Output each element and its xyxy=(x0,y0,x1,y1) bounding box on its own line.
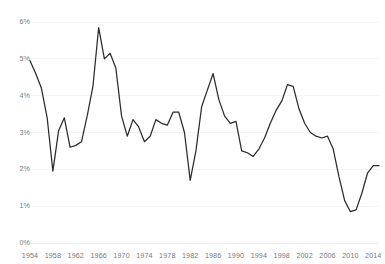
x-tick-label-1974: 1974 xyxy=(136,252,152,260)
x-tick-label-1994: 1994 xyxy=(251,252,267,260)
plot-area xyxy=(0,0,385,264)
x-tick-label-1990: 1990 xyxy=(228,252,244,260)
x-tick-label-2006: 2006 xyxy=(319,252,335,260)
y-tick-label-4%: 4% xyxy=(2,92,30,100)
y-axis: 0%1%2%3%4%5%6% xyxy=(0,0,30,264)
y-tick-label-2%: 2% xyxy=(2,165,30,173)
x-tick-label-1966: 1966 xyxy=(90,252,106,260)
x-tick-label-2002: 2002 xyxy=(296,252,312,260)
series-line-rate xyxy=(30,28,379,212)
x-tick-label-1998: 1998 xyxy=(274,252,290,260)
x-axis: 1954195819621966197019741978198219861990… xyxy=(0,250,385,264)
y-tick-label-0%: 0% xyxy=(2,239,30,247)
x-tick-label-1986: 1986 xyxy=(205,252,221,260)
gridlines xyxy=(30,22,379,243)
x-tick-label-1978: 1978 xyxy=(159,252,175,260)
x-tick-label-1954: 1954 xyxy=(22,252,38,260)
x-tick-label-1962: 1962 xyxy=(68,252,84,260)
y-tick-label-3%: 3% xyxy=(2,129,30,137)
y-tick-label-1%: 1% xyxy=(2,202,30,210)
x-tick-label-1970: 1970 xyxy=(113,252,129,260)
y-tick-label-5%: 5% xyxy=(2,55,30,63)
line-chart: 0%1%2%3%4%5%6% 1954195819621966197019741… xyxy=(0,0,385,264)
x-tick-label-2014: 2014 xyxy=(365,252,381,260)
x-tick-label-1982: 1982 xyxy=(182,252,198,260)
chart-canvas xyxy=(0,0,385,264)
x-tick-label-2010: 2010 xyxy=(342,252,358,260)
y-tick-label-6%: 6% xyxy=(2,18,30,26)
x-tick-label-1958: 1958 xyxy=(45,252,61,260)
